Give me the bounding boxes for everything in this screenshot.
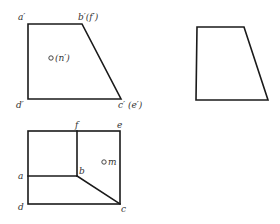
label-c: c <box>121 204 126 214</box>
label-d: d <box>18 202 24 212</box>
point-m <box>102 160 106 164</box>
label-d-prime: d′ <box>16 100 24 110</box>
label-e: e <box>117 120 122 130</box>
label-m: m <box>108 157 117 167</box>
edge-b-c <box>77 176 120 204</box>
label-a: a <box>18 171 23 181</box>
top-view: m f e a b d c <box>18 120 126 214</box>
label-b-prime-f-prime: b′(f′) <box>78 12 99 22</box>
side-view <box>196 27 268 100</box>
front-view: (n′) a′ b′(f′) d′ c′ (e′) <box>16 12 143 110</box>
label-a-prime: a′ <box>18 12 25 22</box>
side-view-outline <box>196 27 268 100</box>
orthographic-projection-diagram: (n′) a′ b′(f′) d′ c′ (e′) m f e a b d c <box>0 0 280 224</box>
label-c-prime-e-prime: c′ (e′) <box>118 100 143 110</box>
label-n-prime: (n′) <box>55 53 70 63</box>
front-view-outline <box>28 24 121 99</box>
point-n-prime <box>49 56 53 60</box>
label-f: f <box>74 120 80 130</box>
label-b: b <box>79 166 85 176</box>
top-view-outline <box>28 131 120 204</box>
